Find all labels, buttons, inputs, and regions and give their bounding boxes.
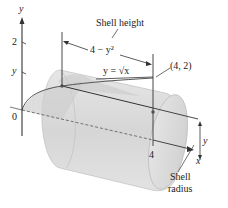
curve-label: y = √x (103, 66, 129, 76)
x-axis-label: x (196, 156, 200, 166)
shell-radius-title-1: Shell (170, 172, 191, 182)
y-tick-2-label: 2 (12, 37, 17, 47)
point-leader (156, 68, 170, 77)
x-tick-4-label: 4 (149, 150, 154, 160)
y-tick-y (22, 72, 26, 74)
shell-radius-symbol: y (203, 136, 207, 146)
shell-radius-title-2: radius (168, 184, 192, 194)
shell-height-arrow-right (120, 55, 150, 64)
y-axis-label: y (19, 4, 23, 14)
y-tick-2 (22, 42, 26, 44)
shell-method-diagram: y 2 y 0 4 x Shell height 4 − y² y = √x (… (0, 0, 228, 208)
y-axis-arrow-icon (20, 17, 25, 24)
y-tick-y-label: y (12, 66, 16, 76)
shell-height-title: Shell height (96, 18, 144, 28)
diagram-graphics (0, 0, 228, 208)
radius-arrow-up-icon (198, 121, 202, 126)
shell-height-leader (112, 29, 118, 38)
shell-height-arrow-left (65, 42, 88, 50)
point-label: (4, 2) (170, 61, 192, 71)
x-axis (10, 107, 22, 110)
shell-height-expression: 4 − y² (90, 45, 114, 55)
arrowhead-right-icon (146, 61, 152, 66)
origin-label: 0 (12, 112, 17, 122)
